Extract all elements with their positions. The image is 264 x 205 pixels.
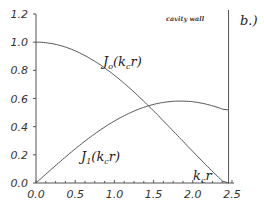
labels: cavity wall b.) Jo(kcr) J1(kcr) kcr (78, 13, 258, 185)
x-tick-label: 1.5 (145, 188, 163, 201)
y-tick-label: 1.2 (11, 8, 29, 21)
x-tick-label: 2.5 (223, 188, 241, 201)
y-tick-label: 0.8 (11, 64, 29, 77)
x-tick-label: 0.5 (66, 188, 84, 201)
y-tick-label: 0.6 (11, 93, 29, 106)
x-tick-label: 0.0 (27, 188, 45, 201)
x-tick-label: 1.0 (106, 188, 124, 201)
y-tick-label: 0.4 (11, 121, 29, 134)
y-tick-label: 1.0 (11, 36, 29, 49)
panel-label: b.) (240, 13, 258, 28)
x-axis-label: kcr (193, 168, 212, 185)
y-tick-label: 0.2 (11, 149, 29, 162)
cavity-wall-label: cavity wall (166, 15, 205, 23)
j1-curve-label: J1(kcr) (78, 149, 120, 166)
j0-curve-label: Jo(kcr) (100, 54, 142, 71)
y-tick-label: 0.0 (11, 177, 29, 190)
x-tick-label: 2.0 (184, 188, 202, 201)
bessel-chart: 0.00.20.40.60.81.01.20.00.51.01.52.02.5 … (0, 0, 264, 205)
